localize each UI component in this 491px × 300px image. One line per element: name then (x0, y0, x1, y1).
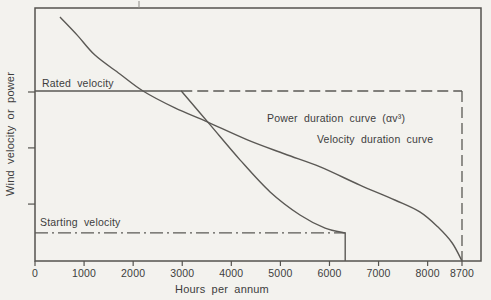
x-tick-label-6000: 6000 (317, 267, 341, 279)
chart-canvas: 0100020003000400050006000700080008700 Ra… (0, 0, 491, 300)
x-tick-label-5000: 5000 (268, 267, 292, 279)
x-tick-label-2000: 2000 (121, 267, 145, 279)
starting-velocity-label: Starting velocity (40, 216, 121, 228)
x-tick-label-1000: 1000 (72, 267, 96, 279)
x-tick-label-4000: 4000 (219, 267, 243, 279)
x-tick-label-3000: 3000 (170, 267, 194, 279)
y-axis-ticks (28, 92, 35, 204)
x-axis-tick-labels: 0100020003000400050006000700080008700 (32, 267, 474, 279)
y-axis-title: Wind velocity or power (4, 72, 16, 196)
x-tick-label-8000: 8000 (416, 267, 440, 279)
x-tick-label-0: 0 (32, 267, 38, 279)
velocity-curve-label: Velocity duration curve (317, 133, 433, 145)
x-tick-label-7000: 7000 (366, 267, 390, 279)
x-axis-title: Hours per annum (175, 283, 269, 295)
rated-velocity-label: Rated velocity (42, 77, 114, 89)
wind-duration-chart: 0100020003000400050006000700080008700 Ra… (0, 0, 491, 300)
power-curve-label: Power duration curve (αv³) (267, 112, 405, 124)
x-tick-label-8700: 8700 (450, 267, 474, 279)
